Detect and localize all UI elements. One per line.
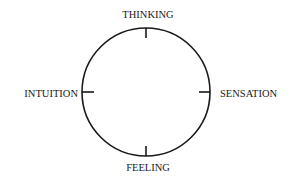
label-thinking: THINKING: [122, 9, 174, 20]
label-sensation: SENSATION: [220, 88, 278, 99]
function-diagram: THINKING FEELING INTUITION SENSATION: [0, 0, 302, 180]
label-intuition: INTUITION: [24, 88, 78, 99]
label-feeling: FEELING: [126, 162, 170, 173]
function-circle: [82, 28, 210, 156]
